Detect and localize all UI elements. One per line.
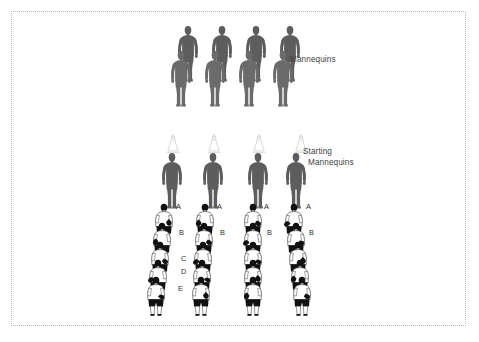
step-label-c4-b: B [309,229,314,237]
mannequin-3-front [236,50,262,108]
slide-canvas: Mannequins ABCDEABABAB StartingMannequin… [0,0,479,342]
starting-mannequin-2 [200,152,226,210]
step-label-c2-b: B [220,229,225,237]
sequence-figure-c2-f5 [186,276,216,316]
step-label-c3-a: A [264,203,269,211]
mannequin-1-front [168,50,194,108]
step-label-c1-e: E [178,285,183,293]
sequence-figure-c1-f5 [141,276,171,316]
sequence-figure-c3-f5 [238,276,268,316]
step-label-c3-b: B [267,229,272,237]
step-label-c2-a: A [217,203,222,211]
sequence-figure-c4-f5 [287,276,317,316]
step-label-c1-b: B [179,229,184,237]
starting-label-line2: Mannequins [303,157,354,168]
step-label-c1-a: A [176,203,181,211]
starting-mannequins-label: StartingMannequins [303,146,354,168]
starting-label-line1: Starting [303,147,332,156]
step-label-c1-d: D [181,268,186,276]
step-label-c1-c: C [181,255,186,263]
mannequin-2-front [202,50,228,108]
step-label-c4-a: A [306,203,311,211]
starting-mannequin-1 [159,152,185,210]
mannequins-label: Mannequins [290,54,336,65]
